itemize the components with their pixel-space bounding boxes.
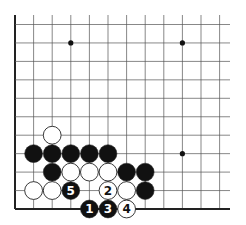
white-stone-2: 2 [99,182,117,200]
black-stone-icon [43,163,61,181]
black-stone-1: 1 [81,200,99,218]
go-board: 52134 [0,0,246,225]
black-stone [136,182,154,200]
black-stone [118,163,136,181]
white-stone [62,163,80,181]
black-stone-icon [62,145,80,163]
black-stone [136,163,154,181]
white-stone [81,163,99,181]
black-stone [25,145,43,163]
black-stone [62,145,80,163]
white-stone-icon [118,182,136,200]
star-point-icon [180,40,185,45]
black-stone [43,145,61,163]
move-number: 5 [67,184,75,198]
black-stone-icon [136,163,154,181]
black-stone-icon [81,145,99,163]
white-stone-icon [25,182,43,200]
white-stone-icon [62,163,80,181]
star-point-icon [68,40,73,45]
black-stone-icon [99,145,117,163]
white-stone-4: 4 [118,200,136,218]
move-number: 2 [104,184,112,198]
white-stone-icon [99,163,117,181]
white-stone [43,126,61,144]
star-point-icon [180,151,185,156]
white-stone-icon [43,126,61,144]
white-stone [118,182,136,200]
move-number: 1 [85,202,93,216]
white-stone-icon [43,182,61,200]
white-stone [25,182,43,200]
black-stone [99,145,117,163]
black-stone [81,145,99,163]
move-number: 4 [122,202,130,216]
black-stone-3: 3 [99,200,117,218]
black-stone [43,163,61,181]
black-stone-icon [43,145,61,163]
black-stone-5: 5 [62,182,80,200]
move-number: 3 [104,202,112,216]
black-stone-icon [25,145,43,163]
black-stone-icon [118,163,136,181]
black-stone-icon [136,182,154,200]
white-stone [43,182,61,200]
white-stone-icon [81,163,99,181]
white-stone [99,163,117,181]
